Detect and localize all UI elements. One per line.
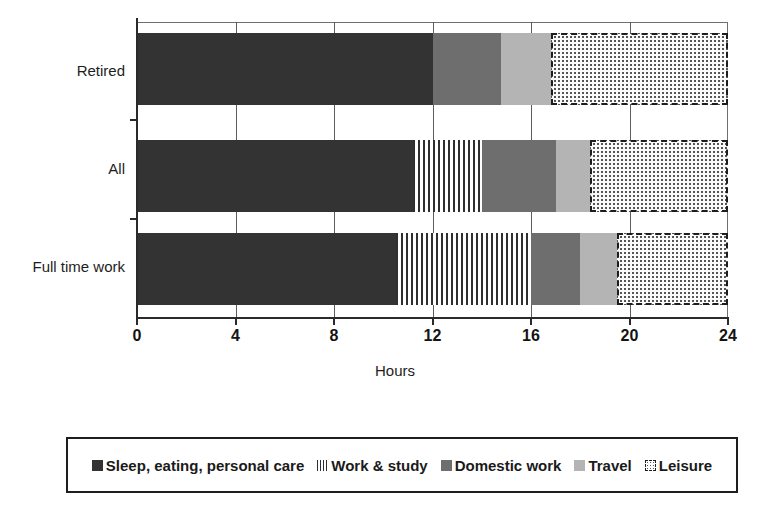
x-tick-label-0: 0 [117,327,157,345]
plot-area [137,22,728,318]
x-tick-8 [333,318,335,325]
x-tick-20 [629,318,631,325]
segment-fulltime-work [396,233,531,305]
segment-fulltime-leisure [617,233,728,305]
y-tick-1 [130,119,137,121]
segment-retired-domestic [433,33,502,105]
x-tick-12 [432,318,434,325]
legend-item-leisure[interactable]: Leisure [645,457,712,474]
legend-items: Sleep, eating, personal care Work & stud… [68,439,736,491]
segment-fulltime-travel [580,233,617,305]
work-study-swatch-icon [317,460,328,471]
category-label-all: All [0,160,125,177]
category-label-retired: Retired [0,62,125,79]
x-tick-label-20: 20 [610,327,650,345]
x-tick-0 [136,318,138,325]
segment-fulltime-domestic [531,233,580,305]
segment-all-work [413,140,482,212]
x-tick-24 [727,318,729,325]
x-axis-title-text: Hours [375,362,415,379]
legend: Sleep, eating, personal care Work & stud… [66,437,738,493]
travel-swatch-icon [574,460,585,471]
category-label-full-time-work: Full time work [0,258,125,275]
domestic-work-swatch-icon [441,460,452,471]
x-tick-16 [530,318,532,325]
legend-item-work-study[interactable]: Work & study [317,457,427,474]
x-tick-label-16: 16 [511,327,551,345]
y-axis-line [136,18,138,322]
stacked-bar-chart: Retired All Full time work 0 4 8 12 16 2… [0,0,784,420]
segment-retired-leisure [551,33,728,105]
x-tick-label-4: 4 [216,327,256,345]
x-tick-label-24: 24 [708,327,748,345]
legend-label-domestic-work: Domestic work [455,457,562,474]
segment-all-travel [556,140,591,212]
segment-retired-sleep [137,33,433,105]
legend-item-travel[interactable]: Travel [574,457,631,474]
legend-item-sleep[interactable]: Sleep, eating, personal care [92,457,304,474]
legend-label-work-study: Work & study [331,457,427,474]
segment-all-sleep [137,140,413,212]
x-tick-label-8: 8 [314,327,354,345]
sleep-swatch-icon [92,460,103,471]
legend-item-domestic-work[interactable]: Domestic work [441,457,562,474]
segment-fulltime-sleep [137,233,396,305]
legend-label-travel: Travel [588,457,631,474]
leisure-swatch-icon [645,460,656,471]
legend-label-leisure: Leisure [659,457,712,474]
x-tick-4 [235,318,237,325]
x-tick-label-12: 12 [413,327,453,345]
segment-all-domestic [482,140,556,212]
x-axis-title: Hours [0,362,784,379]
segment-retired-travel [501,33,550,105]
segment-all-leisure [590,140,728,212]
legend-label-sleep: Sleep, eating, personal care [106,457,304,474]
y-tick-2 [130,218,137,220]
